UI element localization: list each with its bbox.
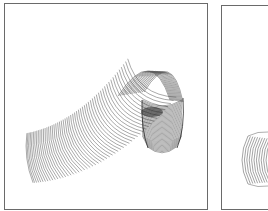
slinky-illustration [0, 0, 268, 211]
slinky-left-drawing [26, 59, 183, 183]
slinky-right-drawing [242, 132, 268, 187]
